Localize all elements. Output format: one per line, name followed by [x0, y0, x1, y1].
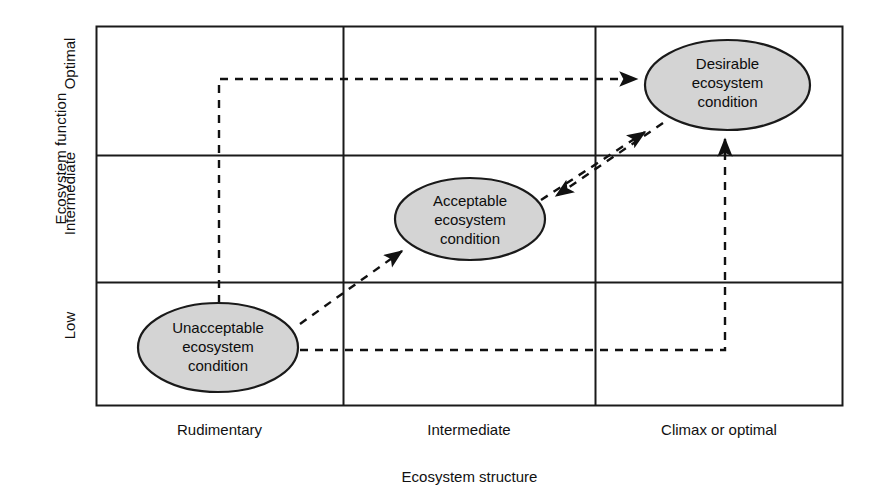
- y-axis-tick-intermediate: Intermediate: [61, 124, 78, 264]
- x-axis-tick-intermediate: Intermediate: [343, 421, 595, 438]
- y-axis-tick-optimal: Optimal: [61, 0, 78, 134]
- ecosystem-condition-diagram: Unacceptable ecosystem condition Accepta…: [0, 0, 883, 501]
- x-axis-title: Ecosystem structure: [96, 468, 843, 485]
- node-desirable-ellipse[interactable]: [645, 40, 810, 130]
- x-axis-tick-climax-or-optimal: Climax or optimal: [595, 421, 843, 438]
- y-axis-tick-low: Low: [61, 256, 78, 396]
- x-axis-tick-rudimentary: Rudimentary: [96, 421, 343, 438]
- node-unacceptable-ellipse[interactable]: [138, 303, 298, 392]
- node-acceptable-ellipse[interactable]: [395, 178, 545, 260]
